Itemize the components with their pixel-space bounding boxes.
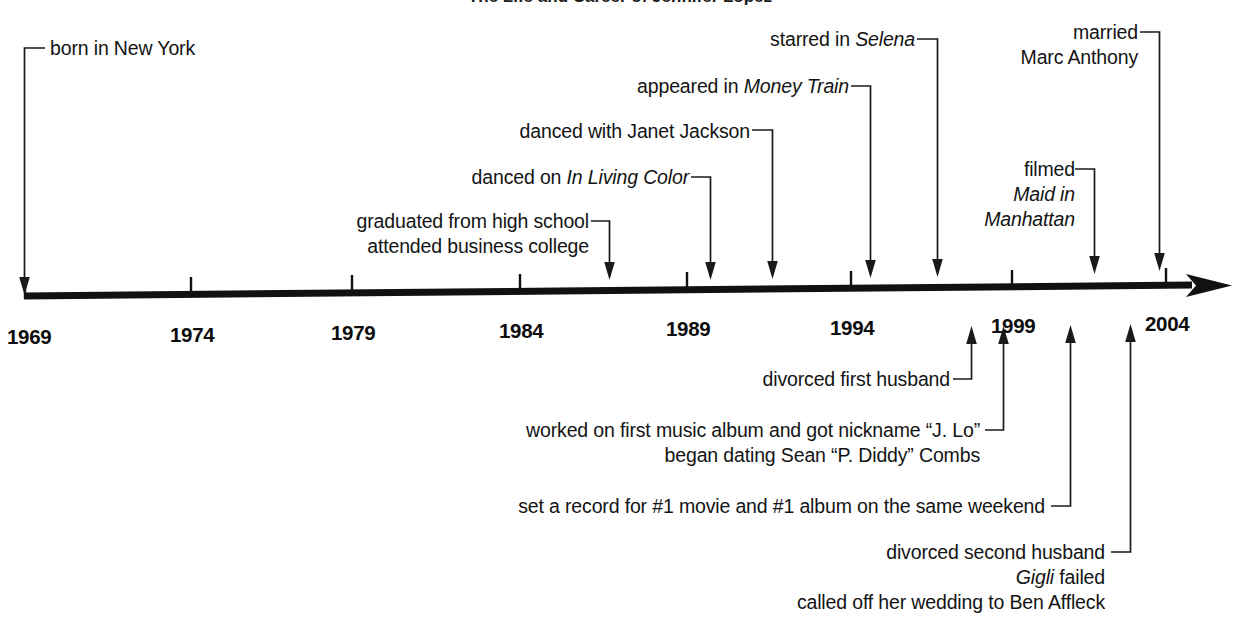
leader-janet-jackson bbox=[752, 130, 773, 262]
year-label-1974: 1974 bbox=[170, 323, 214, 347]
leader-jlo-nickname bbox=[985, 343, 1004, 430]
year-label-2004: 2004 bbox=[1145, 312, 1189, 336]
event-text-record: set a record for #1 movie and #1 album o… bbox=[518, 495, 1045, 517]
year-label-1979: 1979 bbox=[331, 321, 375, 345]
event-label-divorced-first: divorced first husband bbox=[550, 367, 950, 392]
event-text-divorced-second: divorced second husband bbox=[500, 540, 1105, 565]
leader-divorced-second bbox=[1111, 341, 1131, 552]
event-text-money-train-title: Money Train bbox=[744, 75, 849, 97]
event-label-janet-jackson: danced with Janet Jackson bbox=[350, 119, 750, 144]
year-label-1984: 1984 bbox=[499, 319, 543, 343]
arrowhead-married-marc-anthony bbox=[1154, 253, 1165, 271]
arrowhead-divorced-second bbox=[1125, 324, 1136, 342]
event-label-divorced-second: divorced second husband Gigli failed cal… bbox=[500, 540, 1105, 615]
event-text-graduated-line1: graduated from high school bbox=[189, 209, 589, 234]
arrowhead-janet-jackson bbox=[767, 261, 778, 279]
event-text-gigli-title: Gigli bbox=[1016, 566, 1054, 588]
event-text-in-living-color-title: In Living Color bbox=[567, 166, 689, 188]
arrowhead-record bbox=[1065, 325, 1076, 343]
year-label-1999: 1999 bbox=[991, 314, 1035, 338]
event-text-marc-anthony: Marc Anthony bbox=[938, 45, 1138, 70]
event-label-jlo-nickname: worked on first music album and got nick… bbox=[385, 418, 980, 468]
event-label-born: born in New York bbox=[50, 36, 195, 61]
arrowhead-born bbox=[19, 277, 30, 295]
event-text-divorced-first: divorced first husband bbox=[763, 368, 950, 390]
event-text-selena-title: Selena bbox=[855, 28, 915, 50]
event-text-maid-line2: Manhattan bbox=[984, 208, 1075, 230]
leader-money-train bbox=[851, 86, 871, 261]
event-text-money-train-prefix: appeared in bbox=[637, 75, 744, 97]
event-text-filmed: filmed bbox=[875, 157, 1075, 182]
event-text-jlo-line1: worked on first music album and got nick… bbox=[385, 418, 980, 443]
event-text-graduated-line2: attended business college bbox=[189, 234, 589, 259]
event-text-jlo-line2: began dating Sean “P. Diddy” Combs bbox=[385, 443, 980, 468]
event-text-ben-affleck: called off her wedding to Ben Affleck bbox=[500, 590, 1105, 615]
arrowhead-graduated bbox=[604, 262, 615, 280]
year-label-1989: 1989 bbox=[666, 317, 710, 341]
event-label-record: set a record for #1 movie and #1 album o… bbox=[400, 494, 1045, 519]
event-label-maid-in-manhattan: filmed Maid in Manhattan bbox=[875, 157, 1075, 232]
arrowhead-divorced-first bbox=[966, 326, 977, 344]
event-text-maid-line1: Maid in bbox=[1013, 183, 1075, 205]
event-text-in-living-color-prefix: danced on bbox=[472, 166, 567, 188]
event-text-born: born in New York bbox=[50, 37, 195, 59]
event-text-married: married bbox=[938, 20, 1138, 45]
leader-graduated bbox=[591, 221, 610, 263]
leader-born bbox=[25, 48, 46, 278]
year-label-1994: 1994 bbox=[830, 316, 874, 340]
event-text-selena-prefix: starred in bbox=[770, 28, 855, 50]
leader-married-marc-anthony bbox=[1140, 32, 1160, 254]
arrowhead-money-train bbox=[865, 260, 876, 278]
event-text-janet-jackson: danced with Janet Jackson bbox=[520, 120, 750, 142]
axis-line bbox=[24, 274, 1232, 300]
leader-in-living-color bbox=[691, 177, 711, 263]
arrowhead-in-living-color bbox=[705, 262, 716, 280]
event-label-in-living-color: danced on In Living Color bbox=[289, 165, 689, 190]
event-label-married-marc-anthony: married Marc Anthony bbox=[938, 20, 1138, 70]
timeline-figure: The Life and Career of Jennifer Lopez bbox=[0, 0, 1243, 626]
event-label-money-train: appeared in Money Train bbox=[449, 74, 849, 99]
event-label-selena: starred in Selena bbox=[515, 27, 915, 52]
leader-divorced-first bbox=[953, 343, 972, 379]
event-text-gigli-suffix: failed bbox=[1054, 566, 1105, 588]
arrowhead-maid-in-manhattan bbox=[1089, 256, 1100, 274]
year-label-1969: 1969 bbox=[7, 325, 51, 349]
leader-maid-in-manhattan bbox=[1075, 169, 1095, 257]
event-label-graduated: graduated from high school attended busi… bbox=[189, 209, 589, 259]
leader-record bbox=[1051, 342, 1071, 506]
arrowhead-selena bbox=[932, 259, 943, 277]
